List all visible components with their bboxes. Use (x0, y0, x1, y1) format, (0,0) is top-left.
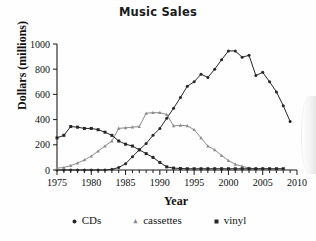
series-cds (56, 49, 292, 171)
data-point-marker (131, 155, 134, 158)
data-point-marker (158, 161, 161, 164)
data-point-marker (145, 152, 148, 155)
x-tick-label: 1995 (184, 177, 204, 188)
data-point-marker (248, 167, 251, 170)
data-point-marker (206, 76, 209, 79)
data-point-marker (275, 167, 278, 170)
data-point-marker (227, 49, 230, 52)
data-point-marker (76, 169, 79, 172)
chart-figure: Music Sales Dollars (millions) 020040060… (0, 0, 316, 241)
data-point-marker (83, 127, 86, 130)
data-point-marker (90, 169, 93, 172)
data-point-marker (200, 73, 203, 76)
data-point-marker (179, 167, 182, 170)
y-axis-ticks: 02004006008001000 (30, 39, 57, 176)
data-point-marker (220, 58, 223, 61)
data-point-marker (110, 134, 113, 137)
y-tick-label: 200 (35, 139, 50, 150)
data-point-marker (97, 169, 100, 172)
triangle-marker-icon (131, 216, 140, 225)
data-point-marker (261, 167, 264, 170)
data-point-marker (186, 167, 189, 170)
data-point-marker (193, 80, 196, 83)
data-point-marker (62, 169, 65, 172)
data-point-marker (275, 90, 278, 93)
data-point-marker (83, 169, 86, 172)
data-point-marker (76, 126, 79, 129)
series-cassettes (55, 111, 285, 171)
data-point-marker (138, 148, 141, 151)
data-point-marker (124, 143, 127, 146)
data-point-marker (261, 71, 264, 74)
data-point-marker (104, 169, 107, 172)
data-point-marker (248, 54, 251, 57)
data-point-marker (234, 167, 237, 170)
data-point-marker (172, 167, 175, 170)
legend-item-vinyl[interactable]: vinyl (212, 214, 247, 226)
data-point-marker (56, 136, 59, 139)
data-point-marker (62, 134, 65, 137)
y-tick-label: 600 (35, 89, 50, 100)
y-tick-label: 400 (35, 114, 50, 125)
data-point-marker (110, 168, 113, 171)
data-point-marker (268, 167, 271, 170)
data-point-marker (97, 128, 100, 131)
data-point-marker (179, 96, 182, 99)
data-point-marker (117, 166, 120, 169)
data-point-marker (131, 145, 134, 148)
x-tick-label: 1975 (47, 177, 67, 188)
circle-marker-icon (70, 216, 79, 225)
legend-item-cassettes[interactable]: cassettes (131, 214, 181, 226)
data-point-marker (234, 49, 237, 52)
series-vinyl (56, 125, 285, 170)
data-point-marker (193, 167, 196, 170)
data-point-marker (268, 80, 271, 83)
data-point-marker (172, 107, 175, 110)
x-tick-label: 2000 (218, 177, 238, 188)
data-point-marker (241, 56, 244, 59)
data-point-marker (206, 167, 209, 170)
legend-label: cassettes (143, 214, 181, 226)
data-point-marker (227, 167, 230, 170)
data-point-marker (282, 167, 285, 170)
x-axis-ticks: 19751980198519901995200020052010 (47, 170, 307, 188)
data-point-marker (213, 167, 216, 170)
data-point-marker (152, 134, 155, 137)
data-point-marker (124, 162, 127, 165)
data-point-marker (69, 169, 72, 172)
data-point-marker (145, 142, 148, 145)
data-point-marker (90, 127, 93, 130)
legend-item-cds[interactable]: CDs (70, 214, 102, 226)
data-point-marker (165, 165, 168, 168)
data-point-marker (254, 74, 257, 77)
data-point-marker (69, 125, 72, 128)
x-tick-label: 2010 (287, 177, 307, 188)
data-point-marker (117, 140, 120, 143)
legend-label: vinyl (224, 214, 247, 226)
data-point-marker (165, 117, 168, 120)
x-tick-label: 2005 (253, 177, 273, 188)
data-point-marker (152, 156, 155, 159)
x-tick-label: 1985 (116, 177, 136, 188)
data-point-marker (200, 167, 203, 170)
data-series-group (55, 49, 291, 171)
chart-legend: CDscassettesvinyl (0, 214, 316, 226)
y-tick-label: 1000 (30, 39, 50, 50)
data-point-marker (289, 120, 292, 123)
data-point-marker (104, 131, 107, 134)
data-point-marker (186, 85, 189, 88)
data-point-marker (220, 167, 223, 170)
y-tick-label: 800 (35, 64, 50, 75)
x-axis-label: Year (57, 194, 295, 209)
square-marker-icon (212, 216, 221, 225)
axes (57, 44, 297, 170)
y-tick-label: 0 (45, 165, 50, 176)
data-point-marker (158, 127, 161, 130)
data-point-marker (213, 68, 216, 71)
legend-label: CDs (82, 214, 102, 226)
x-tick-label: 1990 (150, 177, 170, 188)
data-point-marker (254, 167, 257, 170)
data-point-marker (241, 167, 244, 170)
x-tick-label: 1980 (81, 177, 101, 188)
